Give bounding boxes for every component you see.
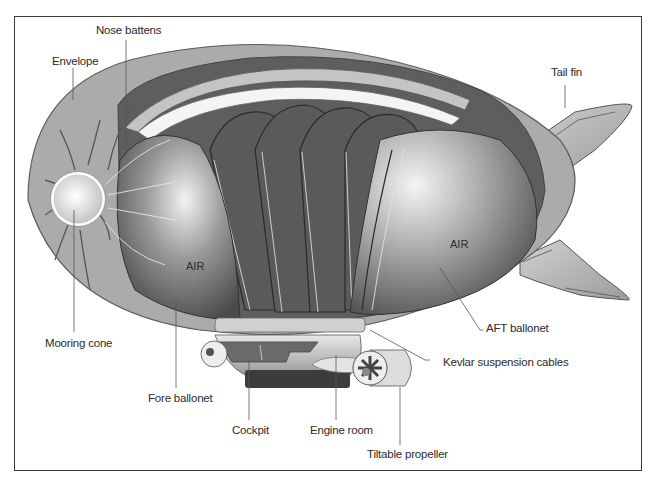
gondola [201, 318, 365, 388]
label-engine-room: Engine room [310, 424, 373, 436]
label-envelope: Envelope [52, 55, 98, 67]
label-kevlar-cables: Kevlar suspension cables [443, 356, 569, 368]
fore-air-text: AIR [186, 260, 204, 272]
label-tiltable-propeller: Tiltable propeller [367, 448, 448, 460]
label-fore-ballonet: Fore ballonet [148, 392, 213, 404]
label-cockpit: Cockpit [232, 424, 269, 436]
label-tail-fin: Tail fin [551, 66, 582, 78]
mooring-cone [52, 173, 104, 225]
label-aft-ballonet: AFT ballonet [486, 322, 549, 334]
label-nose-battens: Nose battens [96, 24, 161, 36]
label-mooring-cone: Mooring cone [45, 337, 112, 349]
aft-air-text: AIR [450, 238, 468, 250]
aft-ballonet [350, 130, 537, 315]
